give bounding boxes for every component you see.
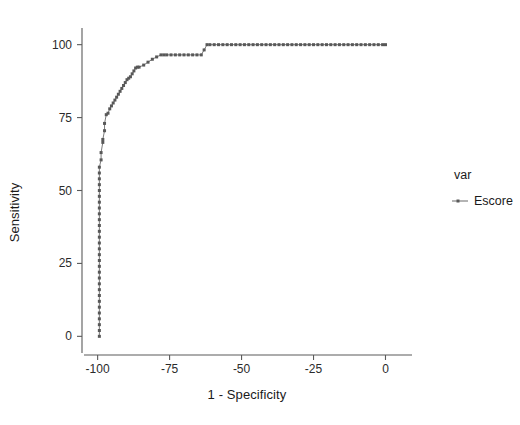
legend-entry-label: Escore bbox=[474, 194, 513, 208]
roc-curve-chart: Sensitivity 0255075100 -100-75-50-250 1 … bbox=[0, 0, 520, 425]
legend-title: var bbox=[454, 168, 518, 182]
legend-key-line-point-icon bbox=[452, 195, 468, 207]
legend: var Escore bbox=[452, 168, 518, 208]
legend-entry-escore[interactable]: Escore bbox=[452, 194, 518, 208]
plot-area bbox=[0, 0, 520, 425]
series-escore bbox=[98, 43, 387, 338]
